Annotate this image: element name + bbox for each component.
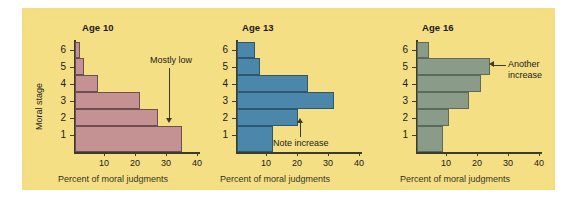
x-tick-30-age-16 [508, 152, 509, 156]
x-tick-label-30-age-13: 30 [317, 159, 339, 168]
x-tick-label-30-age-16: 30 [497, 159, 519, 168]
y-axis-title-age-10: Moral stage [34, 83, 44, 130]
y-tick-label-5-age-10: 5 [52, 62, 66, 72]
x-tick-20-age-16 [477, 152, 478, 156]
x-tick-30-age-10 [166, 152, 167, 156]
x-tick-label-10-age-10: 10 [93, 159, 115, 168]
x-tick-40-age-10 [197, 152, 198, 156]
x-tick-40-age-16 [539, 152, 540, 156]
x-tick-label-40-age-16: 40 [528, 159, 550, 168]
x-tick-30-age-13 [328, 152, 329, 156]
x-tick-40-age-13 [359, 152, 360, 156]
y-tick-3-age-13 [232, 101, 236, 102]
annotation-mostly-low: Mostly low [150, 55, 192, 66]
bar-stage-1-age-13 [237, 126, 273, 152]
y-tick-label-3-age-13: 3 [214, 96, 228, 106]
y-tick-4-age-10 [70, 84, 74, 85]
chart-age-10: Age 10 Moral stage 6 5 4 3 2 1 [22, 8, 208, 190]
y-tick-2-age-10 [70, 118, 74, 119]
y-tick-1-age-16 [412, 135, 416, 136]
y-tick-5-age-13 [232, 67, 236, 68]
y-tick-label-4-age-13: 4 [214, 79, 228, 89]
y-tick-4-age-16 [412, 84, 416, 85]
bar-stage-2-age-10 [75, 109, 158, 126]
bar-stage-4-age-10 [75, 75, 98, 92]
y-tick-3-age-10 [70, 101, 74, 102]
bar-stage-6-age-13 [237, 42, 255, 58]
x-axis-age-10 [74, 152, 200, 154]
y-tick-label-6-age-13: 6 [214, 45, 228, 55]
x-tick-label-20-age-13: 20 [286, 159, 308, 168]
bar-stage-5-age-16 [417, 58, 490, 75]
chart-age-16: Age 16 6 5 4 3 2 1 [384, 8, 555, 190]
y-tick-label-1-age-13: 1 [214, 130, 228, 140]
annotation-note-increase: Note increase [273, 138, 329, 149]
annotation-arrow-head-another-increase [489, 61, 494, 67]
x-axis-title-age-13: Percent of moral judgments [220, 174, 330, 184]
figure-panel: Age 10 Moral stage 6 5 4 3 2 1 [22, 8, 555, 190]
bar-stage-5-age-13 [237, 58, 260, 75]
y-tick-label-2-age-13: 2 [214, 113, 228, 123]
x-axis-title-age-16: Percent of moral judgments [400, 174, 510, 184]
chart-title-age-10: Age 10 [82, 22, 114, 33]
y-tick-5-age-10 [70, 67, 74, 68]
bar-stage-6-age-10 [75, 42, 80, 58]
bar-stage-4-age-16 [417, 75, 481, 92]
x-axis-title-age-10: Percent of moral judgments [58, 174, 168, 184]
y-tick-2-age-13 [232, 118, 236, 119]
bar-stage-6-age-16 [417, 42, 429, 58]
y-tick-6-age-10 [70, 50, 74, 51]
y-tick-label-6-age-10: 6 [52, 45, 66, 55]
bar-stage-2-age-16 [417, 109, 449, 126]
chart-title-age-13: Age 13 [242, 22, 274, 33]
y-tick-label-1-age-16: 1 [394, 130, 408, 140]
y-tick-4-age-13 [232, 84, 236, 85]
bar-stage-3-age-16 [417, 92, 469, 109]
annotation-another-increase-line1: Another [508, 59, 540, 70]
annotation-another-increase-line2: increase [508, 70, 542, 81]
y-tick-6-age-16 [412, 50, 416, 51]
y-tick-label-4-age-16: 4 [394, 79, 408, 89]
bar-stage-1-age-10 [75, 126, 182, 152]
x-axis-age-16 [416, 152, 542, 154]
y-tick-label-5-age-16: 5 [394, 62, 408, 72]
y-tick-label-2-age-16: 2 [394, 113, 408, 123]
x-tick-label-20-age-10: 20 [124, 159, 146, 168]
y-tick-1-age-13 [232, 135, 236, 136]
y-tick-label-1-age-10: 1 [52, 130, 66, 140]
x-tick-label-10-age-16: 10 [435, 159, 457, 168]
y-tick-1-age-10 [70, 135, 74, 136]
x-tick-20-age-10 [135, 152, 136, 156]
x-tick-20-age-13 [297, 152, 298, 156]
y-tick-label-2-age-10: 2 [52, 113, 66, 123]
y-tick-label-6-age-16: 6 [394, 45, 408, 55]
annotation-arrow-head-note-increase [297, 118, 303, 123]
y-tick-label-5-age-13: 5 [214, 62, 228, 72]
y-tick-label-4-age-10: 4 [52, 79, 66, 89]
x-tick-label-30-age-10: 30 [155, 159, 177, 168]
y-tick-3-age-16 [412, 101, 416, 102]
bar-stage-3-age-13 [237, 92, 334, 109]
y-tick-2-age-16 [412, 118, 416, 119]
x-axis-age-13 [236, 152, 362, 154]
plot-area-age-16: 6 5 4 3 2 1 10 20 [416, 40, 546, 158]
annotation-arrow-line-another-increase [493, 65, 506, 66]
x-tick-label-20-age-16: 20 [466, 159, 488, 168]
annotation-arrow-line-mostly-low [169, 68, 170, 120]
x-tick-10-age-13 [266, 152, 267, 156]
x-tick-label-40-age-13: 40 [348, 159, 370, 168]
bar-stage-2-age-13 [237, 109, 298, 126]
x-tick-10-age-16 [446, 152, 447, 156]
chart-title-age-16: Age 16 [422, 22, 454, 33]
y-tick-5-age-16 [412, 67, 416, 68]
bar-stage-3-age-10 [75, 92, 140, 109]
y-tick-label-3-age-16: 3 [394, 96, 408, 106]
x-tick-label-10-age-13: 10 [255, 159, 277, 168]
bar-stage-1-age-16 [417, 126, 443, 152]
annotation-arrow-head-mostly-low [166, 118, 172, 123]
bar-stage-5-age-10 [75, 58, 84, 75]
bar-stage-4-age-13 [237, 75, 308, 92]
figure-root: Age 10 Moral stage 6 5 4 3 2 1 [0, 0, 577, 207]
chart-age-13: Age 13 6 5 4 3 2 1 [204, 8, 384, 190]
x-tick-10-age-10 [104, 152, 105, 156]
